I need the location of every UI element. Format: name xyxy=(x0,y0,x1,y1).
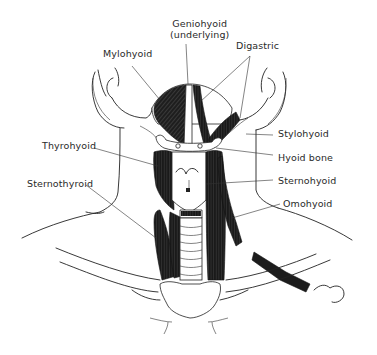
label-geniohyoid-line1: Geniohyoid xyxy=(170,18,229,29)
label-geniohyoid: Geniohyoid (underlying) xyxy=(170,18,229,40)
label-geniohyoid-line2: (underlying) xyxy=(170,29,229,40)
label-hyoid-bone: Hyoid bone xyxy=(278,152,333,163)
neck-muscle-diagram: Geniohyoid (underlying) Mylohyoid Digast… xyxy=(0,0,377,355)
label-sternothyroid: Sternothyroid xyxy=(27,178,93,189)
label-digastric: Digastric xyxy=(236,40,279,51)
label-sternohyoid: Sternohyoid xyxy=(278,175,336,186)
label-mylohyoid: Mylohyoid xyxy=(103,48,152,59)
label-omohyoid: Omohyoid xyxy=(283,198,332,209)
label-thyrohyoid: Thyrohyoid xyxy=(42,140,96,151)
label-stylohyoid: Stylohyoid xyxy=(278,128,329,139)
